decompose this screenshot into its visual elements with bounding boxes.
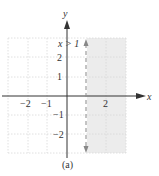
x-axis-label: x [146, 91, 152, 102]
y-tick-neg1: −1 [53, 109, 64, 120]
x-tick-neg1: −1 [41, 98, 52, 109]
y-axis-label: y [62, 8, 68, 19]
y-tick-1: 1 [57, 71, 62, 82]
x-tick-2: 2 [103, 98, 108, 109]
inequality-label: x > 1 [57, 38, 79, 49]
y-tick-neg2: −2 [53, 129, 64, 140]
y-tick-2: 2 [57, 52, 62, 63]
inequality-graph: x y x > 1 −2 −1 2 2 1 −1 −2 (a) [0, 0, 159, 176]
figure-caption: (a) [62, 159, 73, 171]
x-tick-neg2: −2 [20, 98, 31, 109]
